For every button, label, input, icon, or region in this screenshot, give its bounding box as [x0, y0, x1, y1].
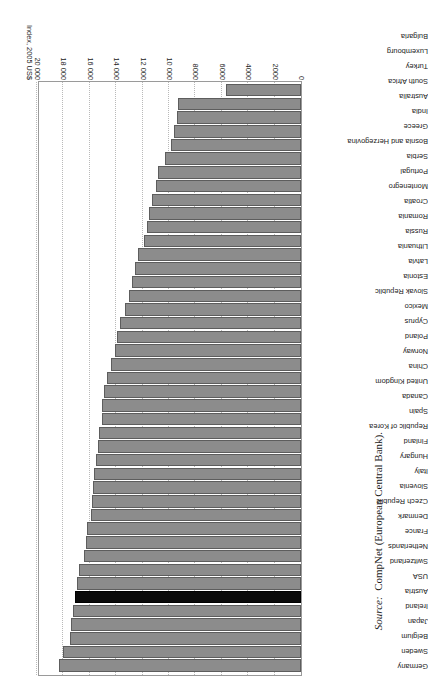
category-label: India [304, 104, 430, 119]
x-tick-label: 2000 [271, 64, 280, 80]
source-prefix: Source: [372, 596, 384, 630]
bar-row [39, 385, 301, 399]
bar [98, 440, 301, 453]
bar [84, 550, 301, 563]
x-axis-tick-labels: 0200040006000800010 00012 00014 00016 00… [38, 18, 302, 80]
bar [77, 577, 301, 590]
category-label: Greece [304, 119, 430, 134]
category-label: Austria [304, 584, 430, 599]
bar-row [39, 550, 301, 564]
bar [104, 385, 301, 398]
category-label: Norway [304, 344, 430, 359]
bar [177, 111, 301, 124]
plot-area [38, 81, 302, 676]
category-label: Ireland [304, 599, 430, 614]
bar [59, 660, 301, 673]
bar-row [39, 111, 301, 125]
bar-chart-figure: GermanySwedenBelgiumJapanIrelandAustriaU… [0, 0, 430, 696]
x-tick-label: 8000 [191, 64, 200, 80]
bar [96, 454, 301, 467]
bar-row [39, 317, 301, 331]
bar-row [39, 646, 301, 660]
x-tick-label: 12 000 [139, 57, 148, 80]
bar [132, 276, 301, 289]
bar [144, 235, 301, 248]
category-label: Slovenia [304, 479, 430, 494]
category-label: Portugal [304, 164, 430, 179]
bar-row [39, 495, 301, 509]
bar [158, 166, 301, 179]
bar-row [39, 659, 301, 673]
bar [171, 139, 301, 152]
bar-row [39, 454, 301, 468]
bar [135, 262, 301, 275]
bar-row [39, 139, 301, 153]
category-label: Netherlands [304, 539, 430, 554]
category-label: Switzerland [304, 554, 430, 569]
bar [178, 98, 301, 111]
category-label: Spain [304, 404, 430, 419]
bar [156, 180, 301, 193]
bar [120, 317, 301, 330]
bar-row [39, 289, 301, 303]
bar [125, 303, 301, 316]
category-label: Italy [304, 464, 430, 479]
bar [226, 84, 301, 97]
bar-row [39, 440, 301, 454]
bar-row [39, 221, 301, 235]
bar-row [39, 426, 301, 440]
x-tick-label: 0 [297, 76, 306, 80]
category-label: France [304, 524, 430, 539]
category-label: Turkey [304, 59, 430, 74]
category-label-list: GermanySwedenBelgiumJapanIrelandAustriaU… [304, 81, 430, 676]
category-label: Croatia [304, 194, 430, 209]
category-label: Bulgaria [304, 29, 430, 44]
bar-row [39, 399, 301, 413]
category-label: Czech Republic [304, 494, 430, 509]
category-label: China [304, 359, 430, 374]
bar-row [39, 330, 301, 344]
bar [93, 481, 301, 494]
category-label: Montenegro [304, 179, 430, 194]
category-label: Romania [304, 209, 430, 224]
bar-row [39, 536, 301, 550]
bar [86, 536, 301, 549]
bar [147, 221, 301, 234]
bar-row [39, 563, 301, 577]
bar [79, 564, 301, 577]
category-label: Bosnia and Herzegovina [304, 134, 430, 149]
bar-row [39, 618, 301, 632]
x-tick-label: 6000 [218, 64, 227, 80]
category-label: Canada [304, 389, 430, 404]
bar-row [39, 413, 301, 427]
bar [149, 207, 301, 220]
bar [117, 331, 301, 344]
bar [87, 522, 301, 535]
x-tick-label: 16 000 [86, 57, 95, 80]
bar [165, 152, 301, 165]
bar-row [39, 125, 301, 139]
category-label: Belgium [304, 629, 430, 644]
bar-row [39, 509, 301, 523]
category-label: Latvia [304, 254, 430, 269]
bar-row [39, 180, 301, 194]
bar-row [39, 522, 301, 536]
bar [102, 399, 301, 412]
bar-row [39, 344, 301, 358]
bar [111, 358, 301, 371]
category-label: Australia [304, 89, 430, 104]
x-tick-label: 10 000 [165, 57, 174, 80]
gridline [36, 82, 37, 675]
bar [91, 509, 301, 522]
x-axis-title: Index, 2005 US$ [25, 25, 34, 80]
category-label: Lithuania [304, 239, 430, 254]
bar-row [39, 193, 301, 207]
bar-row [39, 358, 301, 372]
bar-list [39, 82, 301, 675]
category-label: South Africa [304, 74, 430, 89]
bar-row [39, 276, 301, 290]
bar [129, 290, 301, 303]
bar [174, 125, 301, 138]
bar-row [39, 207, 301, 221]
category-label: Mexico [304, 299, 430, 314]
